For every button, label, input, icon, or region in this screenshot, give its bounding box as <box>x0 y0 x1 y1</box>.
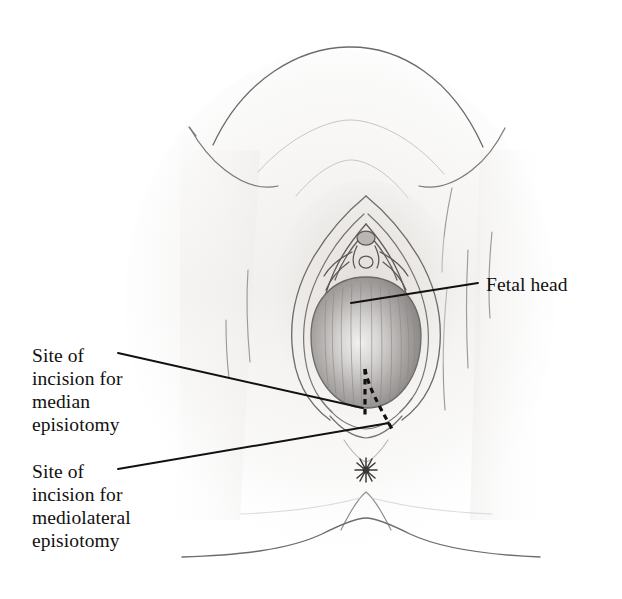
episiotomy-figure: Fetal head Site of incision for median e… <box>0 0 622 599</box>
label-fetal-head: Fetal head <box>486 273 568 296</box>
fetal-head <box>311 277 421 408</box>
label-median-episiotomy: Site of incision for median episiotomy <box>32 344 123 436</box>
label-mediolateral-episiotomy: Site of incision for mediolateral episio… <box>32 460 131 552</box>
